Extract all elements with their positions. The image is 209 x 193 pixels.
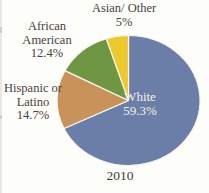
slice-label-asian-other-name: Asian/ Other xyxy=(92,1,156,15)
slice-label-asian-other-pct: 5% xyxy=(81,16,167,30)
slice-label-african-american-pct: 12.4% xyxy=(16,47,78,61)
slice-label-hispanic-or-latino-pct: 14.7% xyxy=(4,109,62,123)
slice-label-hispanic-or-latino: Hispanic or Latino 14.7% xyxy=(4,82,62,123)
slice-label-african-american-name: African American xyxy=(22,19,71,47)
chart-caption-year: 2010 xyxy=(88,168,152,184)
slice-label-white-name: White xyxy=(124,89,156,104)
slice-label-hispanic-or-latino-name: Hispanic or Latino xyxy=(4,81,62,109)
slice-label-african-american: African American 12.4% xyxy=(16,20,78,61)
slice-label-asian-other: Asian/ Other 5% xyxy=(81,2,167,29)
slice-label-white: White 59.3% xyxy=(111,90,169,118)
slice-label-white-pct: 59.3% xyxy=(111,104,169,118)
figure-pie-chart-2010: Asian/ Other 5% African American 12.4% H… xyxy=(0,0,209,193)
